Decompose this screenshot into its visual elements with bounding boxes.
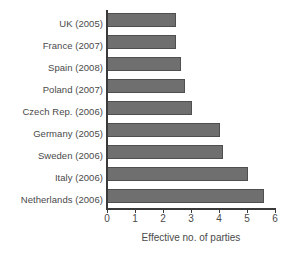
category-label: Italy (2006) (0, 172, 103, 183)
x-axis-tick-label: 0 (97, 213, 117, 224)
plot-area (107, 10, 275, 208)
x-axis-tick-label: 3 (181, 213, 201, 224)
category-axis-labels: UK (2005)France (2007)Spain (2008)Poland… (0, 12, 103, 208)
category-label: Spain (2008) (0, 62, 103, 73)
x-axis-title: Effective no. of parties (107, 232, 275, 243)
category-label: France (2007) (0, 40, 103, 51)
x-axis-tick-label: 2 (153, 213, 173, 224)
bar (107, 57, 181, 71)
category-label: Germany (2005) (0, 128, 103, 139)
category-label: UK (2005) (0, 18, 103, 29)
bar (107, 145, 223, 159)
bar (107, 13, 176, 27)
bar (107, 123, 220, 137)
x-axis-tick-label: 1 (125, 213, 145, 224)
x-axis-tick-label: 6 (265, 213, 285, 224)
bar (107, 101, 192, 115)
bar (107, 35, 176, 49)
bar-chart-figure: UK (2005)France (2007)Spain (2008)Poland… (0, 0, 286, 254)
bar (107, 167, 248, 181)
bar (107, 189, 264, 203)
category-label: Czech Rep. (2006) (0, 106, 103, 117)
x-axis-tick-label: 5 (237, 213, 257, 224)
y-axis-line (106, 10, 108, 209)
bar (107, 79, 185, 93)
category-label: Netherlands (2006) (0, 194, 103, 205)
category-label: Poland (2007) (0, 84, 103, 95)
category-label: Sweden (2006) (0, 150, 103, 161)
x-axis-tick-label: 4 (209, 213, 229, 224)
